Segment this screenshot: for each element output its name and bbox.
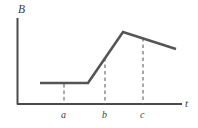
x-tick-label-b: b xyxy=(102,110,107,120)
x-axis-label: t xyxy=(185,98,188,109)
x-tick-label-c: c xyxy=(140,110,144,120)
x-tick-label-a: a xyxy=(61,110,66,120)
chart-figure: B t a b c xyxy=(0,0,198,128)
curve-b-of-t xyxy=(40,32,176,83)
y-axis-label: B xyxy=(18,4,25,16)
chart-plot-area xyxy=(0,0,198,128)
